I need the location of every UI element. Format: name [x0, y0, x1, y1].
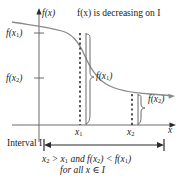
brace-fx2-tail: ) — [161, 94, 164, 104]
brace-label-fx1: f(x1) — [96, 72, 112, 82]
interval-arrow-right-head — [157, 142, 164, 148]
brace-fx2-main: f(x — [148, 94, 158, 104]
x-axis-label: x — [168, 126, 172, 136]
x-tick-label-x1: x1 — [75, 128, 82, 138]
condition-line-1: x2 > x1 and f(x2) < f(x1) — [42, 155, 131, 165]
y-axis-arrowhead — [36, 8, 41, 15]
y-tick-fx2-tail: ) — [19, 73, 22, 83]
diagram-title: f(x) is decreasing on I — [77, 9, 160, 19]
y-tick-fx2-main: f(x — [6, 73, 16, 83]
brace-label-fx2: f(x2) — [148, 95, 164, 105]
cond1-p6: ) < f(x — [100, 154, 124, 164]
curve-arrowhead — [168, 94, 175, 99]
brace-fx2 — [138, 95, 145, 124]
x-tick-x1-subscript: 1 — [79, 130, 82, 137]
cond1-p4: and f(x — [68, 154, 97, 164]
cond1-p8: ) — [128, 154, 131, 164]
y-tick-label-fx1: f(x1) — [6, 29, 22, 39]
diagram-canvas — [0, 0, 184, 178]
x-tick-label-x2: x2 — [127, 128, 134, 138]
y-tick-fx1-main: f(x — [6, 28, 16, 38]
y-tick-label-fx2: f(x2) — [6, 74, 22, 84]
interval-arrow-left-head — [44, 142, 51, 148]
x-tick-x2-subscript: 2 — [131, 130, 134, 137]
condition-line-2: for all x ∈ I — [60, 166, 105, 176]
decreasing-function-diagram: f(x) f(x) is decreasing on I f(x1) f(x2)… — [0, 0, 184, 178]
y-axis-label: f(x) — [42, 9, 55, 19]
brace-fx1-main: f(x — [96, 71, 106, 81]
brace-fx1-tail: ) — [109, 71, 112, 81]
y-tick-fx1-tail: ) — [19, 28, 22, 38]
brace-fx1 — [86, 34, 94, 124]
cond1-p2: > x — [49, 154, 64, 164]
interval-label: Interval I — [7, 139, 42, 149]
